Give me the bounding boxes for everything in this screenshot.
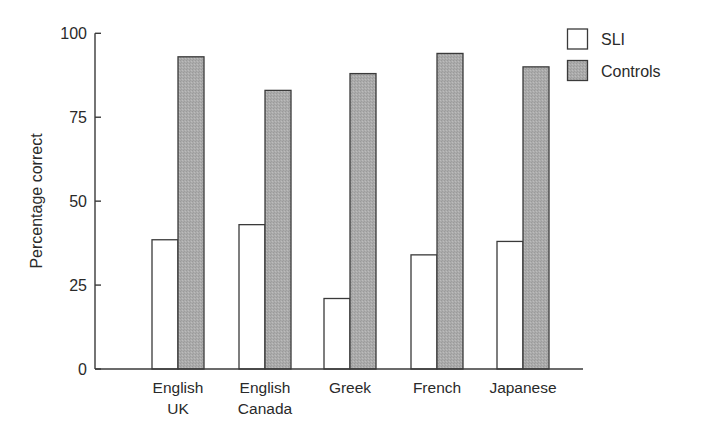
bar-chart: 0255075100 Percentage correct EnglishUKE… [0, 0, 705, 434]
bar-controls [437, 53, 463, 369]
bar-sli [497, 241, 523, 369]
bar-group-english-canada [239, 90, 291, 369]
legend-label-controls: Controls [601, 63, 661, 80]
bar-sli [152, 240, 178, 369]
y-tick-label: 25 [69, 277, 87, 294]
y-tick-label: 100 [60, 25, 87, 42]
x-tick-label: Canada [238, 400, 293, 417]
bar-group-french [411, 53, 463, 369]
x-tick-label: French [413, 379, 461, 396]
x-tick-label: English [153, 379, 204, 396]
x-tick-label: UK [167, 400, 189, 417]
bar-controls [265, 90, 291, 369]
y-tick-label: 0 [78, 361, 87, 378]
bar-controls [178, 57, 204, 369]
x-tick-label: English [240, 379, 291, 396]
x-tick-label: Greek [329, 379, 371, 396]
bar-sli [324, 299, 350, 369]
bar-controls [350, 74, 376, 369]
y-tick-label: 50 [69, 193, 87, 210]
bar-group-japanese [497, 67, 549, 369]
bar-sli [411, 255, 437, 369]
bar-group-greek [324, 74, 376, 369]
x-tick-label: Japanese [489, 379, 556, 396]
bars-group [152, 53, 549, 369]
y-axis: 0255075100 [60, 25, 101, 378]
bar-controls [523, 67, 549, 369]
x-axis-labels: EnglishUKEnglishCanadaGreekFrenchJapanes… [153, 379, 557, 417]
y-tick-label: 75 [69, 109, 87, 126]
legend-swatch-sli [568, 29, 588, 49]
bar-group-english-uk [152, 57, 204, 369]
legend-label-sli: SLI [601, 31, 625, 48]
y-axis-label: Percentage correct [28, 133, 45, 269]
y-axis-title: Percentage correct [28, 133, 45, 269]
bar-sli [239, 225, 265, 369]
legend: SLIControls [568, 29, 661, 81]
legend-swatch-controls [568, 61, 588, 81]
